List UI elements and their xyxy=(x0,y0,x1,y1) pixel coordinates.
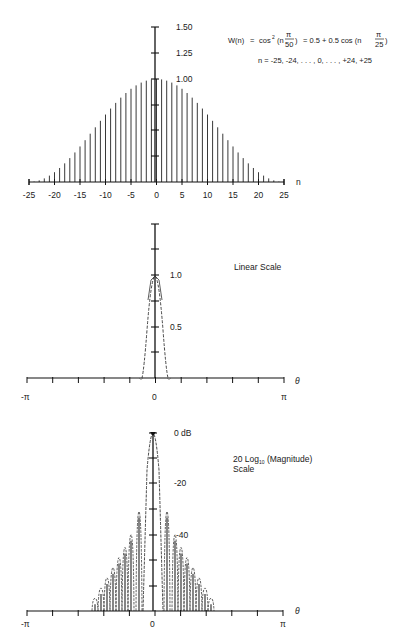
x-axis-label: n xyxy=(296,177,301,187)
x-tick-label: -15 xyxy=(74,190,87,200)
x-tick-label: 20 xyxy=(254,190,264,200)
svg-text:π: π xyxy=(376,30,381,39)
window-plot: 1.50 1.25 1.00 n -25-20-15-10-5051015202… xyxy=(23,22,388,200)
y-tick-label: 0 dB xyxy=(174,428,192,438)
y-tick-label: 0.5 xyxy=(170,322,182,332)
svg-text:2: 2 xyxy=(272,34,275,40)
log-scale-title: 20 Log10 (Magnitude) Scale xyxy=(233,454,312,474)
x-tick-label: -π xyxy=(21,392,30,402)
x-tick-label: 5 xyxy=(180,190,185,200)
x-tick-label: π xyxy=(281,392,287,402)
x-tick-label: -10 xyxy=(99,190,112,200)
svg-text:cos: cos xyxy=(259,36,271,45)
svg-text:): ) xyxy=(385,36,388,45)
y-tick-label: -20 xyxy=(174,478,187,488)
y-tick-label: 1.00 xyxy=(176,74,193,84)
x-axis-label: θ xyxy=(295,606,300,616)
x-tick-label: 0 xyxy=(150,619,155,629)
x-tick-label: -20 xyxy=(48,190,61,200)
x-tick-label: -25 xyxy=(23,190,36,200)
svg-text:25: 25 xyxy=(375,40,383,49)
x-axis-label: θ xyxy=(295,376,300,386)
x-tick-label: π xyxy=(280,619,286,629)
window-range: n = -25, -24, . . . , 0, . . . , +24, +2… xyxy=(258,56,372,65)
linear-plot: Linear Scale 1.0 0.5 θ -π 0 π xyxy=(21,224,300,402)
svg-text:(n: (n xyxy=(277,36,284,45)
svg-text:= 0.5 + 0.5 cos (n: = 0.5 + 0.5 cos (n xyxy=(303,36,361,45)
linear-scale-title: Linear Scale xyxy=(234,262,282,272)
y-tick-label: -40 xyxy=(176,530,189,540)
svg-text:): ) xyxy=(295,36,298,45)
svg-text:Scale: Scale xyxy=(233,464,255,474)
x-tick-label: 15 xyxy=(228,190,238,200)
x-tick-label: 25 xyxy=(279,190,289,200)
window-formula: W(n) = cos 2 (n π 50 ) = 0.5 + 0.5 cos (… xyxy=(228,30,388,65)
x-tick-label: 10 xyxy=(203,190,213,200)
y-tick-label: 1.50 xyxy=(176,22,193,32)
x-tick-label: -5 xyxy=(127,190,135,200)
log-plot: 0 dB -20 -40 20 Log10 (Magnitude) Scale … xyxy=(21,428,312,629)
svg-text:=: = xyxy=(250,36,255,45)
svg-text:π: π xyxy=(286,30,291,39)
x-tick-label: -π xyxy=(21,619,30,629)
y-tick-label: 1.25 xyxy=(176,48,193,58)
svg-text:W(n): W(n) xyxy=(228,36,245,45)
x-tick-label: 0 xyxy=(154,190,159,200)
y-tick-label: 1.0 xyxy=(170,270,182,280)
figure-canvas: 1.50 1.25 1.00 n -25-20-15-10-5051015202… xyxy=(0,0,415,638)
svg-text:50: 50 xyxy=(285,40,293,49)
x-tick-label: 0 xyxy=(152,392,157,402)
